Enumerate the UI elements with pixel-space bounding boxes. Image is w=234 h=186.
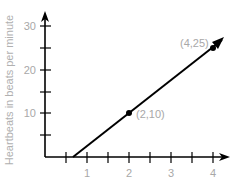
x-tick-1: 1 xyxy=(84,167,90,179)
y-tick-10: 10 xyxy=(24,107,36,119)
y-tick-30: 30 xyxy=(24,20,36,32)
y-axis-title: Heartbeats in beats per minute xyxy=(3,15,15,165)
point-4-25 xyxy=(210,45,216,51)
x-tick-2: 2 xyxy=(126,167,132,179)
x-tick-3: 3 xyxy=(168,167,174,179)
point-2-10 xyxy=(126,110,132,116)
x-tick-4: 4 xyxy=(210,167,216,179)
data-line xyxy=(73,37,224,157)
chart: Heartbeats in beats per minute 30 20 10 … xyxy=(0,0,234,186)
y-tick-20: 20 xyxy=(24,64,36,76)
point-label-4-25: (4,25) xyxy=(180,37,209,49)
point-label-2-10: (2,10) xyxy=(136,108,165,120)
y-axis: 30 20 10 xyxy=(24,11,51,157)
